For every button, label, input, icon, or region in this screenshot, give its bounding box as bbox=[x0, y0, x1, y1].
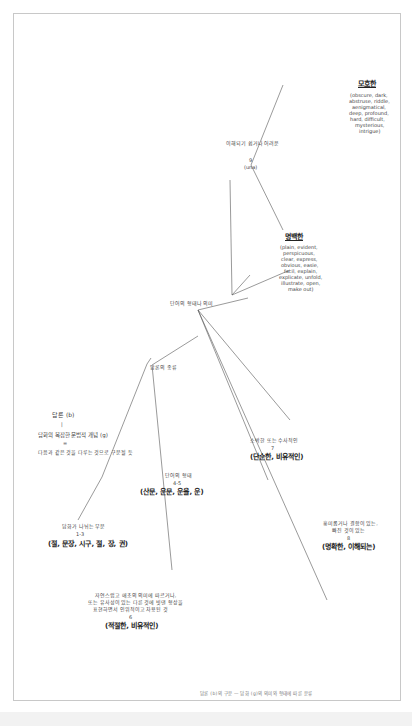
simple-desc: 소박한 또는 수사적인 bbox=[250, 437, 298, 444]
form-terms: (산문, 운문, 운율, 운) bbox=[140, 488, 204, 497]
root-equals: = bbox=[63, 440, 67, 447]
simple-number: 7 bbox=[271, 445, 274, 452]
root-definition: 담화의 복잡한 문법적 개념 (g) bbox=[38, 432, 108, 439]
obscure-word-6: intrigue) bbox=[359, 128, 380, 134]
clear-sense-desc-1: 흥미롭거나 결함이 있는, bbox=[323, 520, 378, 527]
understanding-sub: (una) bbox=[244, 164, 257, 171]
root-title: 담론 (b) bbox=[52, 412, 74, 419]
meaning-label: 단어의 형태나 의미 bbox=[170, 300, 213, 307]
form-label: 단어의 형태 bbox=[165, 472, 192, 479]
root-connector: | bbox=[61, 421, 63, 428]
obscure-title: 모호한 bbox=[358, 80, 376, 89]
clear-sense-number: 8 bbox=[347, 535, 350, 542]
understanding-number: 9 bbox=[249, 157, 252, 164]
literal-number: 6 bbox=[129, 614, 132, 621]
parts-number: 1-3 bbox=[76, 531, 84, 538]
literal-terms: (적절한, 비유적인) bbox=[105, 622, 159, 631]
understanding-label: 이해되기 쉽거나 어려운 bbox=[226, 140, 279, 147]
form-number: 4-5 bbox=[173, 480, 181, 487]
parts-terms: (절, 문장, 시구, 절, 장, 권) bbox=[48, 540, 128, 549]
simple-terms: (단순한, 비유적인) bbox=[250, 453, 304, 462]
clear-sense-terms: (명확한, 이해되는) bbox=[322, 543, 376, 552]
root-note: 다음과 같은 것을 다루는 것으로 구분될 듯 bbox=[38, 449, 133, 456]
literal-desc-2: 또는 유사성이 있는 다른 것에 빗댄 형상을 bbox=[88, 599, 183, 606]
clear-word-7: make out) bbox=[288, 286, 313, 292]
clear-title: 명백한 bbox=[285, 233, 303, 242]
literal-desc-1: 자연스럽고 애초의 의미에 따르거나, bbox=[95, 592, 176, 599]
clear-sense-desc-2: 빠진 것이 있는 bbox=[332, 527, 365, 534]
literal-desc-3: 표현하면서 인위적이고 차용된 것 bbox=[93, 606, 168, 613]
diagram-connector-lines bbox=[0, 0, 412, 726]
types-label: 담론의 종류 bbox=[150, 364, 177, 371]
figure-caption: 담론 (b)의 구분 — 담화 (g)의 의미와 형태에 따른 분류 bbox=[200, 690, 312, 696]
parts-label: 담화가 나뉘는 부분 bbox=[62, 523, 105, 530]
